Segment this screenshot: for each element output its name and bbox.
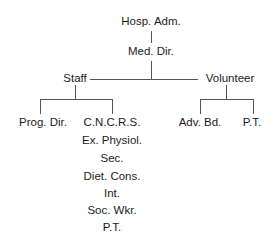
- connector-to-prog-dir: [40, 99, 41, 114]
- connector-staff-branch: [40, 99, 113, 100]
- node-staff: Staff: [63, 72, 86, 85]
- node-volunteer-pt: P.T.: [243, 116, 261, 129]
- node-diet-cons: Diet. Cons.: [84, 170, 141, 183]
- node-sec: Sec.: [100, 152, 123, 165]
- node-int: Int.: [104, 187, 120, 200]
- connector-volunteer-branch: [200, 99, 254, 100]
- connector-volunteer-down: [226, 85, 227, 99]
- connector-staff-down: [75, 85, 76, 99]
- node-adv-bd: Adv. Bd.: [179, 116, 222, 129]
- node-staff-pt: P.T.: [103, 221, 121, 234]
- connector-staff-volunteer: [90, 79, 198, 80]
- node-volunteer: Volunteer: [206, 72, 255, 85]
- connector-to-cncrs: [112, 99, 113, 114]
- connector-root-meddir: [151, 31, 152, 43]
- connector-to-adv-bd: [200, 99, 201, 114]
- node-soc-wkr: Soc. Wkr.: [87, 204, 136, 217]
- node-hosp-adm: Hosp. Adm.: [121, 15, 180, 28]
- node-prog-dir: Prog. Dir.: [19, 116, 67, 129]
- org-chart: Hosp. Adm. Med. Dir. Staff Volunteer Pro…: [0, 0, 276, 252]
- node-cncrs: C.N.C.R.S.: [84, 116, 141, 129]
- node-med-dir: Med. Dir.: [128, 45, 174, 58]
- node-ex-physiol: Ex. Physiol.: [82, 134, 142, 147]
- connector-to-pt: [253, 99, 254, 114]
- connector-meddir-down: [151, 61, 152, 79]
